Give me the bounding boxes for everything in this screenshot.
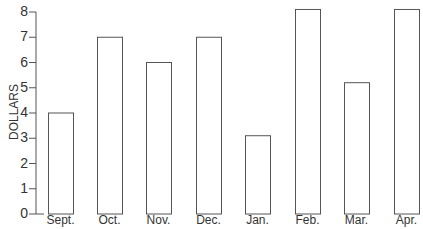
x-tick-label: Mar. xyxy=(332,213,382,227)
x-tick-label: Nov. xyxy=(134,213,184,227)
x-tick-label: Apr. xyxy=(382,213,423,227)
bar-apr xyxy=(395,9,420,214)
bar-feb xyxy=(296,9,321,214)
bar-nov xyxy=(147,63,172,215)
x-tick-label: Sept. xyxy=(36,213,86,227)
y-tick-label: 5 xyxy=(14,79,28,95)
y-tick-label: 3 xyxy=(14,129,28,145)
y-tick-label: 8 xyxy=(14,3,28,19)
bar-chart: DOLLARS 012345678 Sept.Oct.Nov.Dec.Jan.F… xyxy=(0,0,423,229)
y-tick-label: 1 xyxy=(14,180,28,196)
x-tick-label: Jan. xyxy=(233,213,283,227)
bar-mar xyxy=(345,83,370,214)
bar-jan xyxy=(246,136,271,214)
x-tick-label: Oct. xyxy=(85,213,135,227)
y-tick-label: 6 xyxy=(14,54,28,70)
chart-canvas xyxy=(0,0,423,229)
y-tick-label: 2 xyxy=(14,155,28,171)
y-tick-label: 4 xyxy=(14,104,28,120)
y-tick-label: 7 xyxy=(14,28,28,44)
bar-dec xyxy=(197,37,222,214)
y-tick-label: 0 xyxy=(14,205,28,221)
bar-oct xyxy=(98,37,123,214)
bar-sept xyxy=(49,113,74,214)
x-tick-label: Dec. xyxy=(184,213,234,227)
x-tick-label: Feb. xyxy=(283,213,333,227)
